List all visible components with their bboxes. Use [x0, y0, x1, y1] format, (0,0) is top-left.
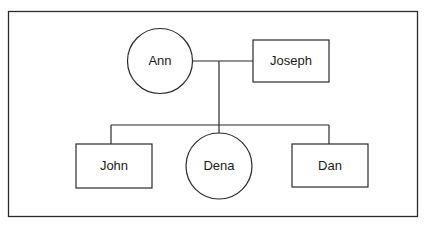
family-tree-diagram: Ann Joseph John Dena Dan [0, 0, 425, 225]
person-name: Joseph [270, 53, 312, 68]
person-ann: Ann [128, 29, 193, 94]
person-name: Dan [318, 158, 342, 173]
person-john: John [76, 144, 152, 188]
person-name: John [100, 158, 128, 173]
person-dan: Dan [292, 144, 368, 187]
person-dena: Dena [186, 133, 252, 199]
person-name: Ann [148, 53, 171, 68]
person-name: Dena [203, 158, 235, 173]
person-joseph: Joseph [253, 40, 329, 82]
